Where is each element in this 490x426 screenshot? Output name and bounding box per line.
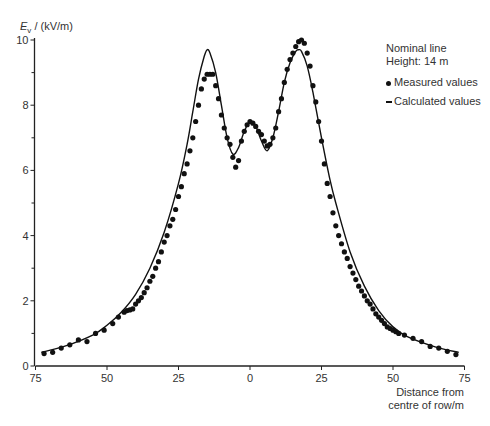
measured-point	[196, 103, 201, 108]
measured-point	[110, 321, 115, 326]
measured-point	[230, 155, 235, 160]
measured-point	[190, 135, 195, 140]
legend-item-measured: Measured values	[386, 76, 481, 89]
measured-point	[419, 339, 424, 344]
measured-point	[368, 301, 373, 306]
measured-point	[345, 256, 350, 261]
measured-point	[193, 119, 198, 124]
measured-point	[428, 344, 433, 349]
measured-point	[170, 217, 175, 222]
measured-point	[370, 306, 375, 311]
measured-point	[139, 295, 144, 300]
measured-point	[162, 240, 167, 245]
measured-point	[202, 77, 207, 82]
x-tick-label: 50	[101, 372, 113, 384]
measured-point	[239, 138, 244, 143]
measured-point	[150, 274, 155, 279]
annotation-line-2: Height: 14 m	[386, 55, 481, 68]
y-axis-unit: / (kV/m)	[34, 20, 73, 32]
measured-point	[176, 194, 181, 199]
measured-point	[173, 207, 178, 212]
measured-point	[350, 270, 355, 275]
measured-point	[302, 41, 307, 46]
measured-point	[348, 264, 353, 269]
legend-item-calculated: Calculated values	[386, 95, 481, 108]
measured-point	[445, 349, 450, 354]
measured-point	[362, 293, 367, 298]
x-axis-label-line-1: Distance from	[388, 386, 464, 399]
measured-point	[41, 351, 46, 356]
measured-point	[310, 83, 315, 88]
y-tick-label: 4	[22, 230, 28, 242]
measured-point	[273, 125, 278, 130]
measured-point	[353, 277, 358, 282]
y-tick-label: 10	[16, 34, 28, 46]
measured-point	[356, 284, 361, 289]
y-tick-label: 8	[22, 99, 28, 111]
measured-point	[116, 315, 121, 320]
measured-point	[313, 99, 318, 104]
measured-point	[225, 135, 230, 140]
y-axis-label: Ev / (kV/m)	[20, 20, 73, 35]
measured-point	[233, 165, 238, 170]
measured-point	[322, 161, 327, 166]
measured-point	[287, 57, 292, 62]
measured-point	[325, 181, 330, 186]
x-tick-label: 75	[29, 372, 41, 384]
measured-point	[396, 331, 401, 336]
measured-point	[319, 138, 324, 143]
measured-point	[359, 288, 364, 293]
measured-point	[184, 161, 189, 166]
measured-point	[59, 345, 64, 350]
measured-point	[142, 290, 147, 295]
measured-point	[102, 328, 107, 333]
y-tick-label: 6	[22, 164, 28, 176]
x-tick-label: 0	[247, 372, 253, 384]
legend-label: Measured values	[394, 76, 478, 88]
measured-point	[199, 86, 204, 91]
measured-point	[285, 67, 290, 72]
x-tick-label: 50	[387, 372, 399, 384]
x-tick-label: 25	[172, 372, 184, 384]
measured-point	[316, 119, 321, 124]
measured-point	[182, 171, 187, 176]
measured-point	[179, 184, 184, 189]
measured-point	[167, 223, 172, 228]
measured-point	[227, 142, 232, 147]
measured-point	[282, 80, 287, 85]
measured-point	[219, 112, 224, 117]
measured-point	[50, 350, 55, 355]
legend: Nominal line Height: 14 m Measured value…	[386, 42, 481, 108]
measured-point	[327, 194, 332, 199]
x-axis-label: Distance from centre of row/m	[388, 386, 464, 412]
measured-point	[156, 259, 161, 264]
measured-point	[159, 249, 164, 254]
dot-marker-icon	[386, 81, 391, 86]
measured-point	[293, 44, 298, 49]
y-tick-label: 2	[22, 295, 28, 307]
measured-point	[436, 345, 441, 350]
x-axis-label-line-2: centre of row/m	[388, 399, 464, 412]
x-tick-label: 25	[315, 372, 327, 384]
measured-point	[76, 337, 81, 342]
measured-point	[342, 249, 347, 254]
measured-point	[402, 332, 407, 337]
measured-point	[222, 125, 227, 130]
measured-point	[210, 72, 215, 77]
measured-point	[339, 241, 344, 246]
measured-point	[153, 266, 158, 271]
measured-point	[307, 63, 312, 68]
measured-point	[453, 352, 458, 357]
measured-point	[259, 132, 264, 137]
measured-point	[336, 233, 341, 238]
legend-label: Calculated values	[394, 95, 481, 107]
measured-point	[84, 339, 89, 344]
measured-point	[216, 96, 221, 101]
measured-point	[93, 331, 98, 336]
measured-point	[333, 223, 338, 228]
measured-point	[130, 306, 135, 311]
measured-point	[242, 129, 247, 134]
measured-point	[270, 135, 275, 140]
measured-point	[253, 124, 258, 129]
measured-point	[187, 148, 192, 153]
